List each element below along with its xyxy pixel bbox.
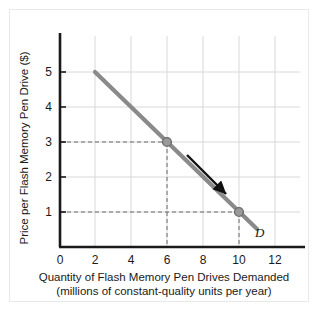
x-tick-label-12: 12 — [265, 254, 285, 266]
y-tick-label-5: 5 — [34, 66, 52, 78]
x-tick-label-10: 10 — [229, 254, 249, 266]
movement-arrow — [187, 155, 226, 194]
x-axis-label-line1: Quantity of Flash Memory Pen Drives Dema… — [14, 270, 314, 284]
x-tick-label-2: 2 — [85, 254, 105, 266]
y-tick-label-4: 4 — [34, 101, 52, 113]
x-tick-label-8: 8 — [193, 254, 213, 266]
demand-curve-label: D — [255, 225, 264, 241]
point-a-marker — [163, 138, 172, 147]
y-tick-label-2: 2 — [34, 171, 52, 183]
demand-curve-figure: 5 4 3 2 1 0 2 4 6 8 10 12 Price per Flas… — [0, 0, 328, 319]
x-tick-label-6: 6 — [157, 254, 177, 266]
point-b-marker — [235, 208, 244, 217]
x-tick-label-0: 0 — [50, 254, 70, 266]
demand-curve-line — [95, 72, 257, 229]
y-axis-label: Price per Flash Memory Pen Drive ($) — [18, 50, 30, 246]
x-tick-label-4: 4 — [121, 254, 141, 266]
x-axis-label: Quantity of Flash Memory Pen Drives Dema… — [14, 270, 314, 298]
y-tick-label-3: 3 — [34, 136, 52, 148]
y-tick-label-1: 1 — [34, 206, 52, 218]
x-axis-label-line2: (millions of constant-quality units per … — [14, 284, 314, 298]
guide-lines — [60, 142, 239, 247]
